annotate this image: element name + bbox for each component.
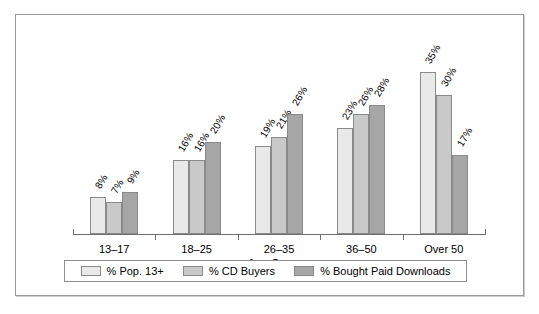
bar-wrapper: 21% — [271, 137, 287, 234]
bar[interactable] — [173, 160, 189, 234]
bar-wrapper: 23% — [337, 128, 353, 234]
bar-group: 19%21%26% — [255, 36, 303, 234]
bar-wrapper: 26% — [353, 114, 369, 234]
legend-label: % Pop. 13+ — [107, 265, 164, 277]
category-label: 13–17 — [73, 243, 155, 255]
legend-item[interactable]: % CD Buyers — [183, 265, 275, 277]
bar[interactable] — [420, 72, 436, 234]
bar-value-label: 30% — [439, 66, 458, 88]
bar-group: 35%30%17% — [420, 36, 468, 234]
bar[interactable] — [337, 128, 353, 234]
bar[interactable] — [122, 192, 138, 234]
category-label: Over 50 — [403, 243, 485, 255]
legend-item[interactable]: % Bought Paid Downloads — [294, 265, 450, 277]
legend-label: % CD Buyers — [209, 265, 275, 277]
bar-value-label: 35% — [423, 43, 442, 65]
bar-wrapper: 7% — [106, 202, 122, 234]
category-label: 26–35 — [238, 243, 320, 255]
chart-figure: 8%7%9%16%16%20%19%21%26%23%26%28%35%30%1… — [0, 0, 539, 314]
bar-wrapper: 19% — [255, 146, 271, 234]
bar[interactable] — [189, 160, 205, 234]
x-axis-tick — [403, 234, 404, 240]
bar-wrapper: 28% — [369, 105, 385, 234]
x-axis-tick — [320, 234, 321, 240]
bar[interactable] — [255, 146, 271, 234]
bar-group: 16%16%20% — [173, 36, 221, 234]
x-axis-tick — [155, 234, 156, 240]
bar-wrapper: 35% — [420, 72, 436, 234]
x-axis-start-cap — [73, 229, 74, 235]
bar-wrapper: 17% — [452, 155, 468, 234]
bar[interactable] — [106, 202, 122, 234]
bar[interactable] — [353, 114, 369, 234]
bar-group: 23%26%28% — [337, 36, 385, 234]
x-axis-line — [73, 234, 485, 235]
bar-value-label: 16% — [176, 131, 195, 153]
bar[interactable] — [369, 105, 385, 234]
bar[interactable] — [205, 142, 221, 234]
bar-wrapper: 26% — [287, 114, 303, 234]
bar-wrapper: 16% — [189, 160, 205, 234]
category-label: 36–50 — [320, 243, 402, 255]
bar-value-label: 8% — [94, 173, 110, 191]
chart-legend: % Pop. 13+% CD Buyers% Bought Paid Downl… — [64, 260, 467, 282]
legend-item[interactable]: % Pop. 13+ — [81, 265, 164, 277]
bar-wrapper: 30% — [436, 95, 452, 234]
category-label: 18–25 — [155, 243, 237, 255]
legend-swatch-icon — [81, 266, 101, 276]
x-axis-end-cap — [485, 229, 486, 235]
bar[interactable] — [271, 137, 287, 234]
bar-wrapper: 20% — [205, 142, 221, 234]
bar[interactable] — [452, 155, 468, 234]
legend-swatch-icon — [294, 266, 314, 276]
bar-wrapper: 16% — [173, 160, 189, 234]
bar[interactable] — [90, 197, 106, 234]
bar-group: 8%7%9% — [90, 36, 138, 234]
bar-wrapper: 9% — [122, 192, 138, 234]
bar[interactable] — [287, 114, 303, 234]
legend-label: % Bought Paid Downloads — [320, 265, 450, 277]
x-axis-tick — [238, 234, 239, 240]
legend-swatch-icon — [183, 266, 203, 276]
bar[interactable] — [436, 95, 452, 234]
chart-frame: 8%7%9%16%16%20%19%21%26%23%26%28%35%30%1… — [15, 14, 524, 296]
bar-wrapper: 8% — [90, 197, 106, 234]
